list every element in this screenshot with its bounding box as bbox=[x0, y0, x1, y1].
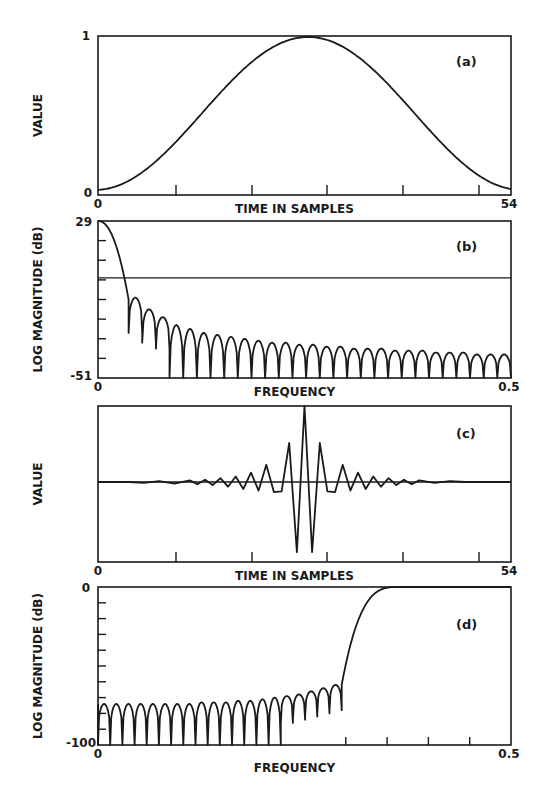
x-tick-label-max: 54 bbox=[501, 564, 518, 578]
panel-a: TIME IN SAMPLESVALUE(a)05410 bbox=[31, 29, 517, 216]
panel-label: (d) bbox=[456, 617, 477, 632]
y-tick-label-min: -51 bbox=[70, 369, 92, 383]
x-tick-label-min: 0 bbox=[94, 380, 102, 394]
y-tick-label-max: 1 bbox=[82, 29, 90, 43]
panel-b: FREQUENCYLOG MAGNITUDE (dB)(b)00.529-51 bbox=[31, 215, 520, 399]
filter-response-curve bbox=[98, 587, 511, 745]
x-tick-label-max: 54 bbox=[501, 197, 518, 211]
y-tick-label-max: 0 bbox=[82, 581, 90, 595]
impulse-response-curve bbox=[98, 406, 511, 552]
y-tick-label-min: -100 bbox=[66, 736, 96, 750]
x-axis-label: TIME IN SAMPLES bbox=[235, 569, 354, 583]
window-curve bbox=[98, 37, 511, 190]
y-axis-label: VALUE bbox=[31, 463, 45, 506]
y-tick-label-min: 0 bbox=[84, 186, 92, 200]
y-tick-label-max: 29 bbox=[75, 215, 92, 229]
x-axis-label: FREQUENCY bbox=[254, 761, 336, 775]
plot-frame bbox=[98, 36, 511, 195]
panel-c: TIME IN SAMPLESVALUE(c)054 bbox=[31, 406, 517, 583]
panel-label: (b) bbox=[456, 239, 477, 254]
panel-d: FREQUENCYLOG MAGNITUDE (dB)(d)00.50-100 bbox=[31, 581, 520, 775]
y-axis-label: LOG MAGNITUDE (dB) bbox=[31, 226, 45, 372]
x-axis-label: FREQUENCY bbox=[254, 385, 336, 399]
x-tick-label-min: 0 bbox=[94, 197, 102, 211]
figure: TIME IN SAMPLESVALUE(a)05410FREQUENCYLOG… bbox=[0, 0, 540, 791]
x-tick-label-max: 0.5 bbox=[498, 380, 519, 394]
y-axis-label: VALUE bbox=[31, 94, 45, 137]
y-axis-label: LOG MAGNITUDE (dB) bbox=[31, 593, 45, 739]
x-tick-label-min: 0 bbox=[94, 564, 102, 578]
spectrum-curve bbox=[98, 221, 511, 378]
x-axis-label: TIME IN SAMPLES bbox=[235, 202, 354, 216]
x-tick-label-max: 0.5 bbox=[498, 747, 519, 761]
panel-label: (a) bbox=[456, 54, 477, 69]
plot-frame bbox=[98, 406, 511, 562]
panel-label: (c) bbox=[456, 426, 476, 441]
